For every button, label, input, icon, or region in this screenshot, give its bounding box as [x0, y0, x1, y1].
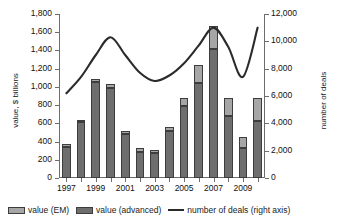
y-axis-right-tick: 10,000 [271, 36, 311, 45]
y-axis-left-tickmark [55, 69, 59, 70]
y-axis-left-tick: 0 [18, 173, 52, 182]
y-axis-right-tick: 0 [271, 173, 311, 182]
y-axis-left-tick: 400 [18, 137, 52, 146]
y-axis-left-tick: 200 [18, 155, 52, 164]
y-axis-left-tickmark [55, 123, 59, 124]
y-axis-left-tickmark [55, 142, 59, 143]
y-axis-right-tickmark [265, 69, 269, 70]
x-axis-tickmark [81, 178, 82, 182]
y-axis-right-tick: 4,000 [271, 118, 311, 127]
y-axis-right-tick: 8,000 [271, 64, 311, 73]
legend-item-2: number of deals (right axis) [168, 205, 290, 215]
y-axis-right-tickmark [265, 41, 269, 42]
y-axis-right-title: number of deals [319, 53, 328, 149]
y-axis-left-tick: 1,200 [18, 64, 52, 73]
y-axis-left-tick: 1,000 [18, 82, 52, 91]
y-axis-right-tickmark [265, 123, 269, 124]
x-axis-tickmark [66, 178, 67, 182]
legend-label: value (EM) [28, 205, 69, 215]
legend-label: value (advanced) [96, 205, 161, 215]
y-axis-right-tickmark [265, 178, 269, 179]
y-axis-left-tickmark [55, 32, 59, 33]
y-axis-right-tick: 2,000 [271, 146, 311, 155]
y-axis-right-tickmark [265, 14, 269, 15]
legend-color-swatch-icon [76, 207, 93, 214]
x-axis-tickmark [155, 178, 156, 182]
chart-legend: value (EM)value (advanced)number of deal… [8, 202, 338, 218]
y-axis-right-tick: 6,000 [271, 91, 311, 100]
legend-label: number of deals (right axis) [187, 205, 290, 215]
legend-color-swatch-icon [8, 207, 25, 214]
legend-line-swatch-icon [168, 209, 184, 212]
x-axis-tickmark [111, 178, 112, 182]
plot-area [59, 14, 265, 178]
x-axis-tickmark [140, 178, 141, 182]
y-axis-left-tick: 1,600 [18, 27, 52, 36]
y-axis-left-tick: 1,400 [18, 45, 52, 54]
y-axis-left-tick: 1,800 [18, 9, 52, 18]
x-axis-tickmark [228, 178, 229, 182]
x-axis-tickmark [125, 178, 126, 182]
chart-container: value, $ billions number of deals 020040… [0, 0, 338, 222]
x-axis-tickmark [243, 178, 244, 182]
y-axis-left-tickmark [55, 50, 59, 51]
y-axis-right-tickmark [265, 151, 269, 152]
y-axis-left-tickmark [55, 178, 59, 179]
y-axis-right-tickmark [265, 96, 269, 97]
y-axis-left-tick: 600 [18, 118, 52, 127]
y-axis-right-tick: 12,000 [271, 9, 311, 18]
legend-item-0: value (EM) [8, 205, 69, 215]
y-axis-left-tick: 800 [18, 100, 52, 109]
y-axis-left-tickmark [55, 160, 59, 161]
legend-item-1: value (advanced) [76, 205, 161, 215]
x-axis-tickmark [199, 178, 200, 182]
x-axis-tickmark [214, 178, 215, 182]
x-axis-tick: 2009 [226, 184, 260, 193]
x-axis-tickmark [96, 178, 97, 182]
x-axis-tickmark [258, 178, 259, 182]
y-axis-left-tickmark [55, 14, 59, 15]
deals-line-series [59, 14, 265, 178]
y-axis-left-tickmark [55, 105, 59, 106]
y-axis-left-tickmark [55, 87, 59, 88]
x-axis-tickmark [184, 178, 185, 182]
x-axis-tickmark [169, 178, 170, 182]
